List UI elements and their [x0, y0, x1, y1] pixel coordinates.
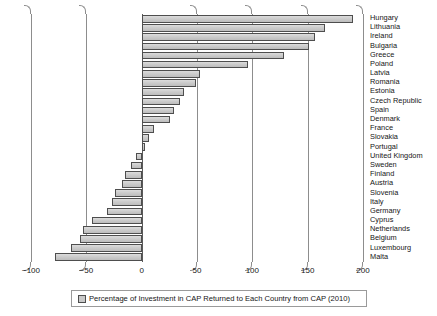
- x-tick-label-50: 50: [193, 266, 202, 276]
- bar-row: [0, 170, 370, 179]
- category-label-malta: Malta: [370, 252, 388, 261]
- category-label-bulgaria: Bulgaria: [370, 41, 397, 50]
- category-label-cyprus: Cyprus: [370, 215, 393, 224]
- category-label-france: France: [370, 123, 393, 132]
- bar-greece: [142, 52, 285, 60]
- bar-row: [0, 197, 370, 206]
- category-label-latvia: Latvia: [370, 68, 390, 77]
- bar-italy: [112, 198, 142, 206]
- category-label-estonia: Estonia: [370, 86, 395, 95]
- legend-label: Percentage of Investment in CAP Returned…: [89, 294, 350, 303]
- x-tick-label-200: 200: [356, 266, 369, 276]
- bar-row: [0, 152, 370, 161]
- x-tick-label--100: −100: [22, 266, 40, 276]
- bar-row: [0, 207, 370, 216]
- bar-row: [0, 60, 370, 69]
- bar-row: [0, 42, 370, 51]
- bar-row: [0, 252, 370, 261]
- category-label-czech-republic: Czech Republic: [370, 96, 422, 105]
- bar-row: [0, 133, 370, 142]
- chart-figure: HungaryLithuaniaIrelandBulgariaGreecePol…: [0, 0, 437, 316]
- x-tick-label-0: 0: [139, 266, 143, 276]
- x-tick-label--50: −50: [80, 266, 94, 276]
- bar-estonia: [142, 88, 184, 96]
- category-label-poland: Poland: [370, 59, 393, 68]
- gridline-cap-top: [301, 5, 308, 14]
- category-label-lithuania: Lithuania: [370, 22, 400, 31]
- bar-malta: [55, 253, 141, 261]
- bar-row: [0, 87, 370, 96]
- legend-swatch-icon: [78, 295, 86, 303]
- category-label-hungary: Hungary: [370, 13, 398, 22]
- x-tick-label-100: 100: [246, 266, 259, 276]
- bar-row: [0, 51, 370, 60]
- category-label-austria: Austria: [370, 178, 393, 187]
- bar-poland: [142, 61, 248, 69]
- bar-slovenia: [115, 189, 142, 197]
- bar-row: [0, 243, 370, 252]
- bar-row: [0, 69, 370, 78]
- bar-portugal: [142, 143, 145, 151]
- bar-row: [0, 142, 370, 151]
- bar-row: [0, 23, 370, 32]
- bar-united-kingdom: [136, 153, 142, 161]
- category-label-romania: Romania: [370, 77, 400, 86]
- bar-austria: [122, 180, 142, 188]
- bar-germany: [107, 208, 141, 216]
- category-label-denmark: Denmark: [370, 114, 400, 123]
- category-axis-labels: HungaryLithuaniaIrelandBulgariaGreecePol…: [366, 14, 437, 262]
- bar-row: [0, 78, 370, 87]
- bar-netherlands: [83, 226, 142, 234]
- category-label-greece: Greece: [370, 50, 394, 59]
- category-label-belgium: Belgium: [370, 233, 397, 242]
- gridline-cap-top: [245, 5, 252, 14]
- bar-row: [0, 179, 370, 188]
- category-label-finland: Finland: [370, 169, 394, 178]
- bar-row: [0, 14, 370, 23]
- bar-row: [0, 124, 370, 133]
- bar-lithuania: [142, 24, 326, 32]
- bar-row: [0, 188, 370, 197]
- bar-row: [0, 32, 370, 41]
- bar-series: [0, 14, 370, 262]
- bar-row: [0, 234, 370, 243]
- bar-row: [0, 225, 370, 234]
- category-label-netherlands: Netherlands: [370, 224, 410, 233]
- bar-denmark: [142, 116, 171, 124]
- bar-czech-republic: [142, 98, 181, 106]
- x-axis-tick-labels: −100−50050100150200: [0, 266, 370, 280]
- bar-row: [0, 106, 370, 115]
- chart-legend: Percentage of Investment in CAP Returned…: [71, 290, 367, 307]
- category-label-slovakia: Slovakia: [370, 132, 398, 141]
- bar-slovakia: [142, 134, 150, 142]
- x-tick-label-150: 150: [301, 266, 314, 276]
- bar-row: [0, 97, 370, 106]
- bar-latvia: [142, 70, 201, 78]
- bar-finland: [125, 171, 142, 179]
- category-label-spain: Spain: [370, 105, 389, 114]
- bar-hungary: [142, 15, 353, 23]
- bar-sweden: [131, 162, 142, 170]
- bar-row: [0, 115, 370, 124]
- category-label-united-kingdom: United Kingdom: [370, 151, 423, 160]
- bar-belgium: [80, 235, 142, 243]
- bar-row: [0, 161, 370, 170]
- bar-spain: [142, 107, 174, 115]
- category-label-sweden: Sweden: [370, 160, 397, 169]
- category-label-ireland: Ireland: [370, 31, 393, 40]
- bar-romania: [142, 79, 196, 87]
- bar-bulgaria: [142, 43, 309, 51]
- gridline-cap-top: [190, 5, 197, 14]
- category-label-italy: Italy: [370, 197, 384, 206]
- category-label-slovenia: Slovenia: [370, 188, 398, 197]
- gridline-cap-top: [79, 5, 86, 14]
- gridline-cap-top: [356, 5, 363, 14]
- bar-ireland: [142, 33, 316, 41]
- bar-cyprus: [92, 217, 142, 225]
- category-label-portugal: Portugal: [370, 142, 398, 151]
- gridline-cap-top: [24, 5, 31, 14]
- category-label-germany: Germany: [370, 206, 400, 215]
- bar-luxembourg: [71, 244, 142, 252]
- bar-france: [142, 125, 154, 133]
- bar-row: [0, 216, 370, 225]
